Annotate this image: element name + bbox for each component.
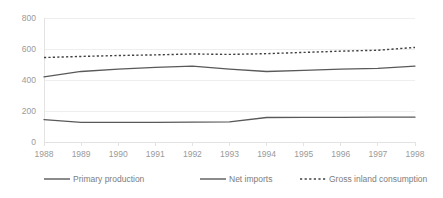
series-line-net-imports xyxy=(44,117,415,122)
x-tick-label: 1995 xyxy=(294,149,313,159)
y-tick-label: 400 xyxy=(22,75,36,85)
gridlines xyxy=(44,18,415,142)
x-axis-tick-labels: 1988198919901991199219931994199519961997… xyxy=(35,149,425,159)
x-tick-label: 1994 xyxy=(257,149,276,159)
y-tick-label: 0 xyxy=(31,137,36,147)
x-tick-label: 1988 xyxy=(35,149,54,159)
line-chart: 0200400600800 19881989199019911992199319… xyxy=(0,0,443,198)
x-axis xyxy=(44,142,415,146)
chart-canvas: 0200400600800 19881989199019911992199319… xyxy=(0,0,443,198)
x-tick-label: 1993 xyxy=(220,149,239,159)
x-tick-label: 1989 xyxy=(72,149,91,159)
y-tick-label: 600 xyxy=(22,44,36,54)
x-tick-label: 1991 xyxy=(146,149,165,159)
chart-legend: Primary productionNet importsGross inlan… xyxy=(44,174,428,184)
x-tick-label: 1990 xyxy=(109,149,128,159)
y-tick-label: 200 xyxy=(22,106,36,116)
x-tick-label: 1992 xyxy=(183,149,202,159)
y-axis-tick-labels: 0200400600800 xyxy=(22,13,36,147)
x-tick-label: 1997 xyxy=(368,149,387,159)
series-line-primary-production xyxy=(44,66,415,77)
x-tick-label: 1996 xyxy=(331,149,350,159)
x-tick-label: 1998 xyxy=(406,149,425,159)
legend-label-gross-inland-consumption: Gross inland consumption xyxy=(329,174,428,184)
legend-label-net-imports: Net imports xyxy=(229,174,272,184)
y-tick-label: 800 xyxy=(22,13,36,23)
legend-label-primary-production: Primary production xyxy=(73,174,145,184)
